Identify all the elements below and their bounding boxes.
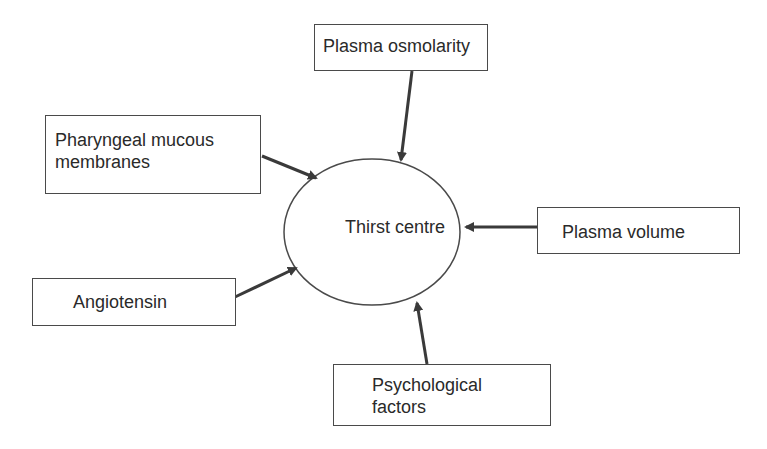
- thirst-centre-label: Thirst centre: [345, 216, 445, 238]
- box-psychological-factors: Psychological factors: [333, 364, 551, 426]
- arrow-plasma-osmolarity: [401, 71, 412, 160]
- box-label-line1: Pharyngeal mucous: [55, 129, 260, 151]
- box-pharyngeal-mucous-membranes: Pharyngeal mucous membranes: [45, 115, 261, 194]
- box-angiotensin: Angiotensin: [32, 278, 236, 326]
- box-label: Angiotensin: [73, 291, 235, 313]
- box-label: Plasma osmolarity: [323, 35, 487, 57]
- box-label-line2: membranes: [55, 151, 260, 173]
- box-label: Plasma volume: [562, 221, 739, 243]
- arrow-psychological: [417, 303, 427, 364]
- box-label-line1: Psychological: [372, 374, 550, 396]
- box-plasma-osmolarity: Plasma osmolarity: [314, 24, 488, 71]
- thirst-regulation-diagram: Thirst centre Plasma osmolarity Pharynge…: [0, 0, 767, 449]
- arrow-pharyngeal: [262, 156, 316, 178]
- box-label-line2: factors: [372, 396, 550, 418]
- box-plasma-volume: Plasma volume: [537, 207, 740, 254]
- center-label-line1: Thirst: [345, 217, 390, 237]
- center-label-line2: centre: [395, 217, 445, 237]
- arrow-angiotensin: [235, 268, 296, 297]
